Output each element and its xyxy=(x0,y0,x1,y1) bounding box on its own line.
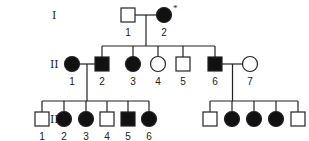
affected-female-symbol xyxy=(225,112,240,127)
individual-number: 4 xyxy=(104,131,110,141)
individual-number: 6 xyxy=(212,76,218,87)
unaffected-male-symbol xyxy=(100,112,114,126)
individual-number: 1 xyxy=(39,131,45,141)
affected-female-symbol xyxy=(142,112,157,127)
unaffected-female-symbol xyxy=(243,57,258,72)
individual-number: 3 xyxy=(83,131,89,141)
affected-female-symbol xyxy=(126,57,141,72)
relationship-lines xyxy=(42,15,298,112)
unaffected-male-symbol xyxy=(35,112,49,126)
individual-number: 2 xyxy=(61,131,67,141)
individual-number: 5 xyxy=(125,131,131,141)
individual-number: 1 xyxy=(125,27,131,38)
affected-male-symbol xyxy=(95,57,109,71)
individual-number: 5 xyxy=(180,76,186,87)
affected-female-symbol: * xyxy=(157,3,179,23)
affected-female-symbol xyxy=(57,112,72,127)
affected-female-symbol xyxy=(269,112,284,127)
unaffected-male-symbol xyxy=(203,112,217,126)
individual-number: 7 xyxy=(247,76,253,87)
affected-male-symbol xyxy=(208,57,222,71)
pedigree-chart: I12II1234567III123456 * xyxy=(0,0,309,141)
individual-number: 3 xyxy=(130,76,136,87)
generation-label: I xyxy=(52,9,56,22)
individual-number: 1 xyxy=(69,76,75,87)
unaffected-male-symbol xyxy=(176,57,190,71)
unaffected-female-symbol xyxy=(151,57,166,72)
generation-label: II xyxy=(50,58,59,71)
individual-number: 6 xyxy=(146,131,152,141)
unaffected-male-symbol xyxy=(291,112,305,126)
individuals: * xyxy=(35,3,305,127)
affected-female-symbol xyxy=(79,112,94,127)
individual-number: 4 xyxy=(155,76,161,87)
proband-marker: * xyxy=(173,3,178,13)
affected-male-symbol xyxy=(121,112,135,126)
affected-female-symbol xyxy=(247,112,262,127)
affected-female-symbol xyxy=(65,57,80,72)
individual-number: 2 xyxy=(99,76,105,87)
individual-number: 2 xyxy=(161,27,167,38)
unaffected-male-symbol xyxy=(121,8,135,22)
